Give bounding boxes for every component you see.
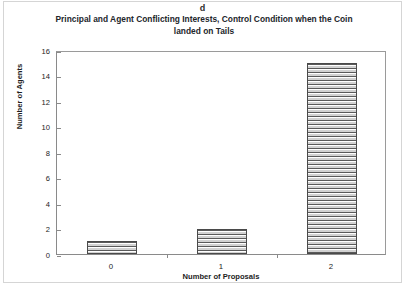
bar [307, 63, 357, 254]
y-axis-tick-mark [57, 103, 61, 104]
x-axis-tick-label: 1 [201, 262, 241, 271]
x-axis-tick-label: 2 [311, 262, 351, 271]
y-axis-tick-label: 10 [42, 123, 50, 132]
bar [87, 241, 137, 254]
y-axis-tick-mark [57, 179, 61, 180]
bar [197, 229, 247, 255]
panel-letter: d [0, 3, 405, 13]
chart-title-line-2: landed on Tails [46, 26, 362, 38]
y-axis-tick-label: 14 [42, 72, 50, 81]
y-axis-tick-mark [57, 230, 61, 231]
y-axis-tick-mark [57, 205, 61, 206]
y-axis-title: Number of Agents [15, 37, 24, 157]
y-axis-tick-mark [57, 256, 61, 257]
y-axis-tick-mark [57, 128, 61, 129]
x-axis-tick-mark [167, 254, 168, 258]
y-axis-tick-label: 2 [46, 225, 50, 234]
chart-figure: d Principal and Agent Conflicting Intere… [0, 0, 405, 286]
plot-area: 0246810121416 [56, 51, 386, 255]
y-axis-tick-mark [57, 52, 61, 53]
y-axis-tick-mark [57, 77, 61, 78]
y-axis-tick-mark [57, 154, 61, 155]
chart-title: Principal and Agent Conflicting Interest… [46, 14, 362, 37]
y-axis-tick-label: 4 [46, 200, 50, 209]
y-axis-tick-label: 6 [46, 174, 50, 183]
y-axis-tick-label: 16 [42, 47, 50, 56]
y-axis-tick-label: 12 [42, 98, 50, 107]
x-axis-title: Number of Proposals [56, 272, 386, 281]
y-axis-tick-label: 0 [46, 251, 50, 260]
x-axis-tick-mark [277, 254, 278, 258]
y-axis-tick-label: 8 [46, 149, 50, 158]
chart-title-line-1: Principal and Agent Conflicting Interest… [46, 14, 362, 26]
x-axis-tick-label: 0 [91, 262, 131, 271]
